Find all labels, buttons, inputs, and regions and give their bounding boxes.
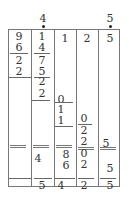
digit: 5: [105, 163, 115, 174]
digit: 1: [56, 115, 66, 126]
double-underline: [10, 145, 26, 148]
digit: 2: [37, 76, 47, 87]
digit: 6: [14, 42, 24, 53]
underline: [32, 100, 50, 101]
column-divider: [31, 29, 32, 187]
digit: 4: [56, 180, 66, 191]
digit: 2: [79, 159, 89, 170]
underline: [9, 77, 31, 78]
column-divider: [98, 29, 99, 187]
underline: [9, 178, 31, 179]
dot-marker: [42, 25, 45, 28]
column-divider: [54, 29, 55, 187]
digit: 2: [82, 33, 92, 44]
top-digit: 5: [105, 13, 115, 24]
top-digit: 4: [38, 13, 48, 24]
dot-marker: [109, 25, 112, 28]
digit: 2: [79, 136, 89, 147]
double-underline: [100, 147, 116, 150]
digit: 2: [37, 88, 47, 99]
column-divider: [76, 29, 77, 187]
digit: 0: [79, 113, 89, 124]
digit: 2: [14, 66, 24, 77]
underline: [55, 126, 73, 127]
digit: 4: [33, 153, 43, 164]
digit: 1: [60, 33, 70, 44]
double-underline: [33, 145, 49, 148]
digit: 2: [79, 180, 89, 191]
digit: 4: [37, 42, 47, 53]
digit: 5: [37, 180, 47, 191]
digit: 6: [61, 160, 71, 171]
digit: 5: [105, 33, 115, 44]
digit: 5: [105, 180, 115, 191]
